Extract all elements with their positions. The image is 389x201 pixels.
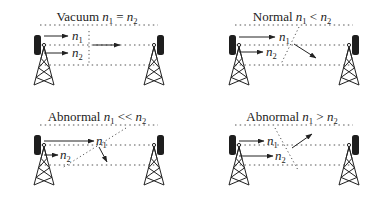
panel-title: Abnormal n1 << n2	[48, 109, 147, 126]
radio-tower-icon	[34, 135, 54, 185]
antenna-dish	[157, 35, 164, 55]
boundary-line	[62, 128, 126, 168]
label-n1-subscript: 1	[286, 36, 290, 46]
label-n1-subscript: 1	[103, 140, 107, 150]
mast-top	[152, 143, 155, 146]
mast-top	[42, 143, 45, 146]
title-relation: <<	[114, 109, 135, 124]
label-n2: n2	[275, 148, 286, 165]
panel-title: Normal n1 < n2	[253, 9, 331, 26]
label-n2: n2	[60, 147, 71, 164]
antenna-dish	[157, 135, 164, 155]
radio-tower-icon	[339, 35, 359, 85]
mast-top	[347, 43, 350, 46]
antenna-dish	[34, 35, 41, 55]
panel-abnormal-much-less: Abnormal n1 << n2n1n2	[34, 109, 164, 185]
antenna-dish	[34, 135, 41, 155]
antenna-dish	[352, 35, 359, 55]
mast-top	[152, 43, 155, 46]
label-n2-subscript: 2	[79, 52, 83, 62]
radio-tower-icon	[144, 35, 164, 85]
title-relation: >	[313, 109, 327, 124]
radio-tower-icon	[144, 135, 164, 185]
radio-tower-icon	[229, 135, 249, 185]
mast-top	[42, 43, 45, 46]
mast-top	[347, 143, 350, 146]
label-n1: n1	[96, 133, 107, 150]
title-relation: =	[113, 9, 127, 24]
label-n2-subscript: 2	[282, 155, 286, 165]
panel-title: Vacuum n1 = n2	[56, 9, 137, 26]
panel-normal: Normal n1 < n2n1n2	[229, 9, 359, 85]
panel-abnormal-greater: Abnormal n1 > n2n1n2	[229, 109, 359, 185]
title-relation: <	[307, 9, 321, 24]
panel-vacuum: Vacuum n1 = n2n1n2	[34, 9, 164, 85]
label-n1: n1	[279, 29, 290, 46]
radio-tower-icon	[229, 35, 249, 85]
panel-title: Abnormal n1 > n2	[246, 109, 337, 126]
antenna-dish	[229, 135, 236, 155]
refracted-ray	[294, 44, 316, 58]
mast-top	[237, 143, 240, 146]
antenna-dish	[229, 35, 236, 55]
radio-tower-icon	[339, 135, 359, 185]
label-n2: n2	[72, 45, 83, 62]
refraction-diagram: Vacuum n1 = n2n1n2Normal n1 < n2n1n2Abno…	[0, 0, 389, 201]
label-n1: n1	[72, 28, 83, 45]
label-n2-subscript: 2	[273, 51, 277, 61]
label-n2: n2	[266, 44, 277, 61]
radio-tower-icon	[34, 35, 54, 85]
refracted-ray	[292, 134, 312, 148]
mast-top	[237, 43, 240, 46]
antenna-dish	[352, 135, 359, 155]
label-n1-subscript: 1	[79, 35, 83, 45]
